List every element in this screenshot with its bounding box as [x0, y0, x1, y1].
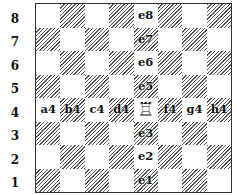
rank-label-5: 5	[8, 82, 22, 96]
square-a8	[36, 4, 60, 28]
square-c4: c4	[85, 98, 109, 122]
square-b3	[60, 122, 84, 146]
square-h5	[207, 75, 231, 99]
square-label-f4: f4	[164, 104, 177, 116]
square-f6	[158, 51, 182, 75]
square-b6	[60, 51, 84, 75]
square-c5	[85, 75, 109, 99]
chess-board: e8e7e6e5a4b4c4d4♖f4g4h4e3e2e1	[35, 3, 232, 193]
rank-label-3: 3	[8, 129, 22, 143]
square-c7	[85, 28, 109, 52]
square-d2	[109, 145, 133, 169]
square-b8	[60, 4, 84, 28]
square-b1	[60, 169, 84, 193]
rank-label-8: 8	[8, 12, 22, 26]
square-c8	[85, 4, 109, 28]
square-e5: e5	[134, 75, 158, 99]
square-e4: ♖	[134, 98, 158, 122]
rank-label-6: 6	[8, 59, 22, 73]
square-g8	[182, 4, 206, 28]
square-d7	[109, 28, 133, 52]
square-d3	[109, 122, 133, 146]
square-f5	[158, 75, 182, 99]
square-d8	[109, 4, 133, 28]
white-rook-icon: ♖	[137, 100, 154, 119]
square-d1	[109, 169, 133, 193]
square-g2	[182, 145, 206, 169]
rank-label-7: 7	[8, 35, 22, 49]
square-b4: b4	[60, 98, 84, 122]
square-label-e2: e2	[138, 151, 153, 163]
square-c2	[85, 145, 109, 169]
rank-label-2: 2	[8, 153, 22, 167]
square-a3	[36, 122, 60, 146]
square-d6	[109, 51, 133, 75]
square-label-h4: h4	[211, 104, 227, 116]
square-a6	[36, 51, 60, 75]
square-label-e6: e6	[138, 57, 153, 69]
square-g6	[182, 51, 206, 75]
square-label-e8: e8	[138, 10, 153, 22]
square-e7: e7	[134, 28, 158, 52]
square-h2	[207, 145, 231, 169]
square-f7	[158, 28, 182, 52]
square-label-d4: d4	[113, 104, 129, 116]
square-g3	[182, 122, 206, 146]
square-h7	[207, 28, 231, 52]
square-g1	[182, 169, 206, 193]
square-h1	[207, 169, 231, 193]
square-e6: e6	[134, 51, 158, 75]
square-f4: f4	[158, 98, 182, 122]
square-c1	[85, 169, 109, 193]
square-a7	[36, 28, 60, 52]
square-e3: e3	[134, 122, 158, 146]
square-b5	[60, 75, 84, 99]
square-h6	[207, 51, 231, 75]
square-f8	[158, 4, 182, 28]
square-f1	[158, 169, 182, 193]
square-e8: e8	[134, 4, 158, 28]
square-b7	[60, 28, 84, 52]
square-a1	[36, 169, 60, 193]
square-label-e3: e3	[138, 128, 153, 140]
square-label-c4: c4	[89, 104, 104, 116]
rank-label-4: 4	[8, 106, 22, 120]
square-h4: h4	[207, 98, 231, 122]
square-label-b4: b4	[65, 104, 81, 116]
square-h3	[207, 122, 231, 146]
square-b2	[60, 145, 84, 169]
square-c3	[85, 122, 109, 146]
square-f3	[158, 122, 182, 146]
square-a2	[36, 145, 60, 169]
square-label-e1: e1	[138, 175, 153, 187]
square-d4: d4	[109, 98, 133, 122]
square-a4: a4	[36, 98, 60, 122]
square-f2	[158, 145, 182, 169]
square-d5	[109, 75, 133, 99]
square-a5	[36, 75, 60, 99]
square-label-e7: e7	[138, 34, 153, 46]
square-g5	[182, 75, 206, 99]
square-g4: g4	[182, 98, 206, 122]
square-h8	[207, 4, 231, 28]
square-e2: e2	[134, 145, 158, 169]
square-g7	[182, 28, 206, 52]
square-label-g4: g4	[186, 104, 202, 116]
rank-label-1: 1	[8, 176, 22, 190]
square-c6	[85, 51, 109, 75]
square-label-e5: e5	[138, 81, 153, 93]
square-label-a4: a4	[40, 104, 55, 116]
square-e1: e1	[134, 169, 158, 193]
